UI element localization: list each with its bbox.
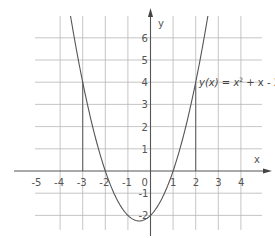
y-tick-label: 4	[142, 77, 148, 88]
x-tick-label: -1	[122, 177, 132, 188]
x-tick-label: -3	[77, 177, 87, 188]
x-tick-label: 4	[238, 177, 244, 188]
x-tick-label: 1	[170, 177, 176, 188]
y-tick-label: 3	[142, 99, 148, 110]
y-axis-label: y	[158, 18, 164, 29]
x-tick-label: -4	[54, 177, 64, 188]
x-tick-label: 0	[142, 177, 148, 188]
formula-prefix: y(x) = x	[198, 77, 239, 88]
x-axis-label: x	[254, 154, 260, 165]
y-tick-label: -1	[139, 188, 149, 199]
function-plot: -5-4-3-2-101234-2-1123456 x y y(x) = x2 …	[0, 0, 275, 238]
function-label: y(x) = x2 + x - 2	[198, 76, 275, 88]
y-tick-label: 6	[142, 33, 148, 44]
x-tick-label: -5	[32, 177, 42, 188]
formula-suffix: + x - 2	[243, 77, 275, 88]
y-tick-label: 5	[142, 55, 148, 66]
y-tick-label: -2	[139, 210, 149, 221]
x-tick-label: -2	[99, 177, 109, 188]
grid	[35, 16, 262, 230]
y-tick-label: 2	[142, 122, 148, 133]
x-tick-label: 2	[193, 177, 199, 188]
y-tick-label: 1	[142, 144, 148, 155]
x-tick-label: 3	[215, 177, 221, 188]
y-axis-arrow-icon	[148, 8, 153, 17]
x-axis-arrow-icon	[263, 169, 272, 174]
